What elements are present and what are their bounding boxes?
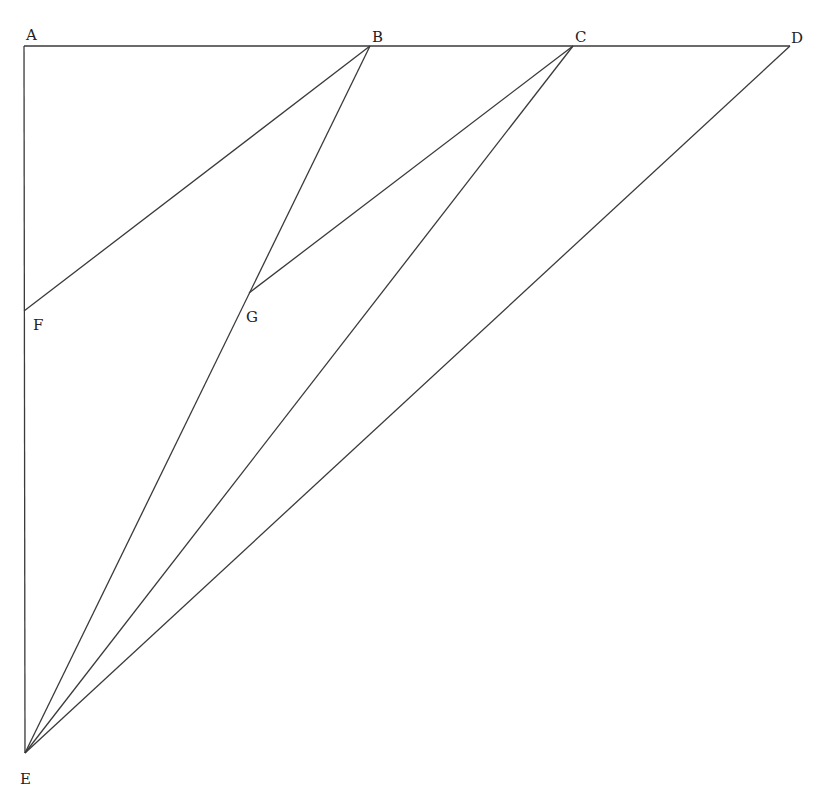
point-label-d: D [791, 29, 803, 47]
point-label-f: F [33, 316, 43, 334]
segment-ce [25, 46, 573, 753]
point-label-c: C [575, 28, 586, 46]
segment-ae [24, 46, 25, 753]
point-label-b: B [372, 28, 383, 46]
segment-be [25, 46, 370, 753]
point-label-e: E [20, 770, 31, 788]
geometry-diagram: ABCDFGE [0, 0, 826, 802]
segment-fb [24, 46, 370, 311]
point-label-g: G [246, 308, 258, 326]
segment-de [25, 46, 790, 753]
point-label-a: A [25, 26, 37, 44]
